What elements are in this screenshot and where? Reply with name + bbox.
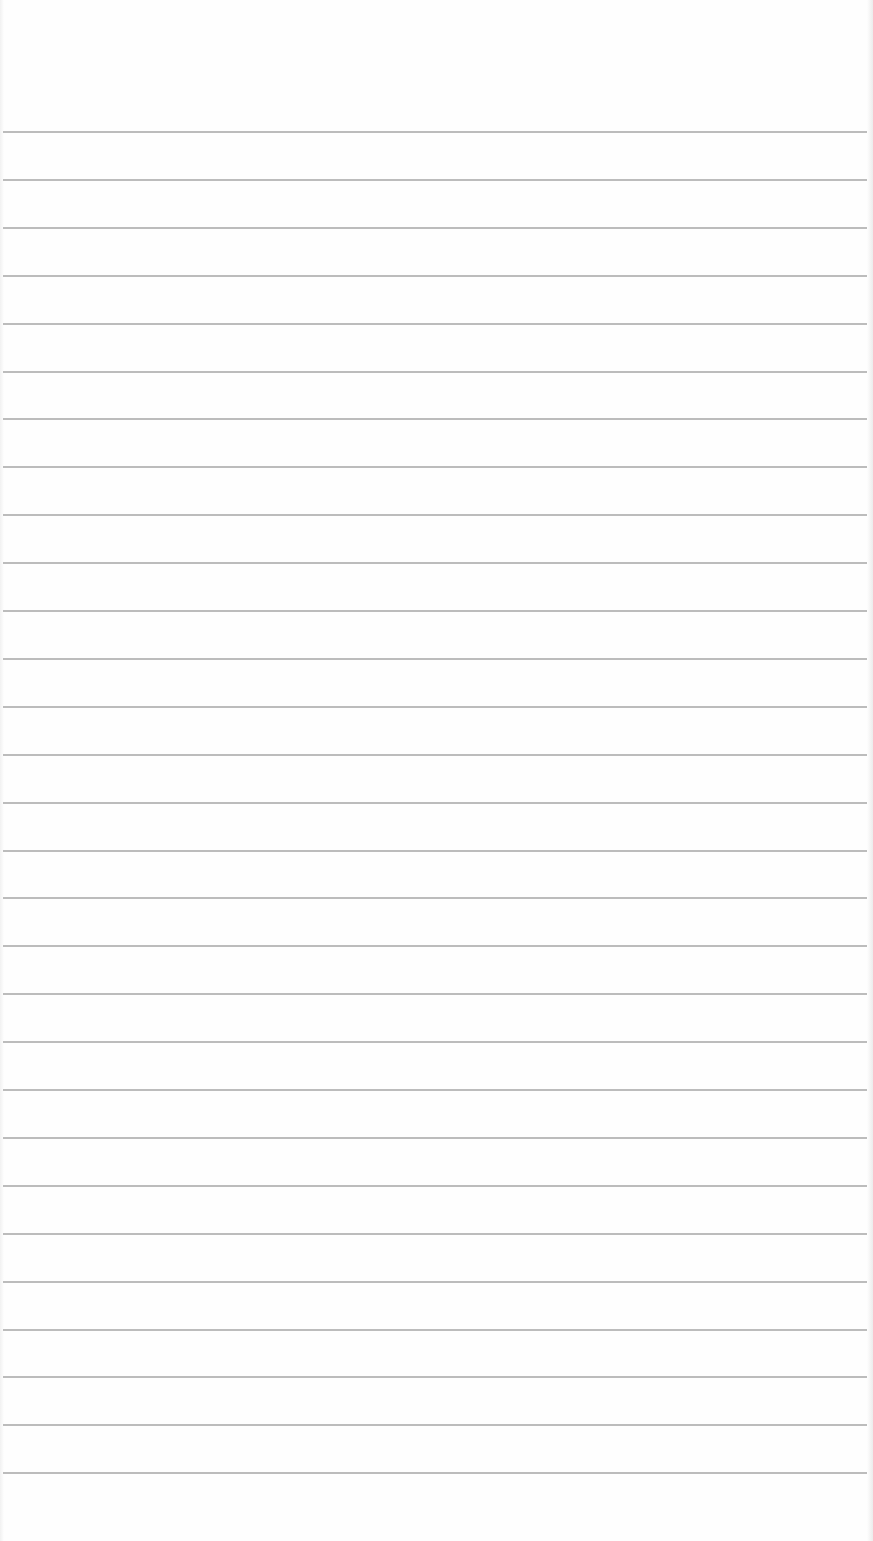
ruled-line — [3, 1089, 867, 1091]
ruled-line — [3, 658, 867, 660]
ruled-line — [3, 1185, 867, 1187]
ruled-line — [3, 1041, 867, 1043]
ruled-line — [3, 1233, 867, 1235]
ruled-line — [3, 418, 867, 420]
ruled-line — [3, 1376, 867, 1378]
ruled-line — [3, 1281, 867, 1283]
ruled-line — [3, 945, 867, 947]
ruled-line — [3, 227, 867, 229]
ruled-line — [3, 897, 867, 899]
ruled-line — [3, 850, 867, 852]
ruled-line — [3, 179, 867, 181]
ruled-line — [3, 754, 867, 756]
paper-right-edge — [867, 0, 873, 1541]
ruled-line — [3, 131, 867, 133]
ruled-line — [3, 514, 867, 516]
ruled-line — [3, 275, 867, 277]
ruled-line — [3, 1329, 867, 1331]
ruled-line — [3, 562, 867, 564]
ruled-line — [3, 610, 867, 612]
ruled-line — [3, 1424, 867, 1426]
ruled-line — [3, 802, 867, 804]
ruled-line — [3, 466, 867, 468]
ruled-line — [3, 1137, 867, 1139]
ruled-line — [3, 706, 867, 708]
lined-paper-sheet — [0, 0, 873, 1541]
ruled-line — [3, 371, 867, 373]
ruled-line — [3, 323, 867, 325]
paper-left-edge — [0, 0, 4, 1541]
ruled-line — [3, 993, 867, 995]
ruled-line — [3, 1472, 867, 1474]
